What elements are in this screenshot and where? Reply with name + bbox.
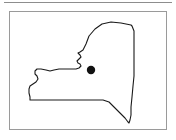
horizontal-rule xyxy=(4,2,172,3)
location-marker-dot xyxy=(87,66,95,74)
map-frame-panel xyxy=(9,11,167,130)
figure-root xyxy=(0,0,176,140)
new-york-state-outline-path xyxy=(29,22,134,123)
state-map-svg xyxy=(10,12,168,131)
